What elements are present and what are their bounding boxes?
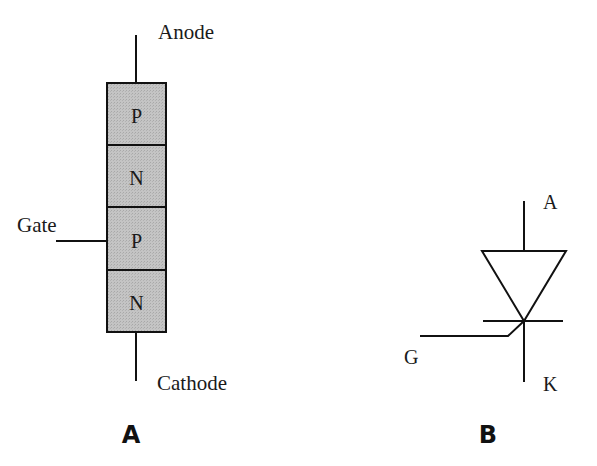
gate-label: Gate [17,213,57,237]
caption-a: A [122,421,141,449]
scr-symbol-diagram: A G K B [404,191,566,449]
layer-p2-label: P [131,230,142,252]
pnpn-structure-diagram: Anode P N P N Gate Cathode A [17,20,227,449]
layer-p1-label: P [131,105,142,127]
diode-triangle-icon [482,251,566,321]
anode-label-b: A [543,191,558,213]
caption-b: B [479,421,497,449]
gate-label-b: G [404,346,418,368]
layer-stack: P N P N [107,83,166,332]
thyristor-figure: Anode P N P N Gate Cathode A A G K B [0,0,597,466]
gate-lead-b [420,321,524,336]
cathode-label: Cathode [157,371,227,395]
cathode-label-b: K [543,373,558,395]
anode-label: Anode [158,20,214,44]
layer-n1-label: N [129,167,143,189]
layer-n2-label: N [129,292,143,314]
